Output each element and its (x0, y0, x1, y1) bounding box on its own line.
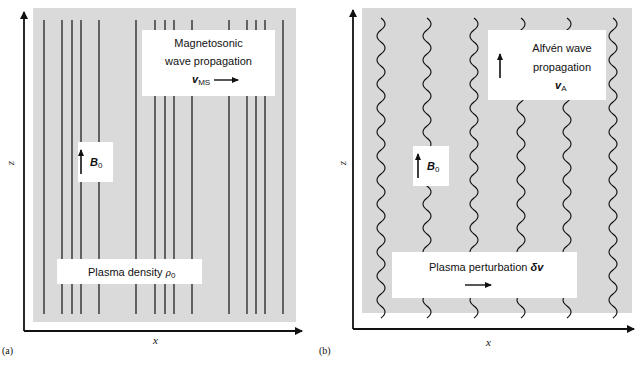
field-symbol: B (427, 160, 435, 172)
panel-b-wave-box: Alfvén wave propagation vA (488, 30, 606, 100)
velocity-label: vA (555, 78, 566, 96)
panel-b-tag: (b) (319, 345, 331, 356)
wave-title-line1: Alfvén wave (518, 41, 606, 55)
right-arrow-icon (392, 252, 577, 298)
density-label: Plasma density ρ0 (88, 265, 175, 283)
density-text: Plasma density (88, 266, 166, 278)
field-label-b0: B0 (427, 159, 439, 177)
panel-a-field-box: B0 (78, 142, 113, 182)
field-subscript: 0 (98, 161, 102, 170)
panel-a-tag: (a) (2, 345, 13, 356)
panel-b-field-box: B0 (413, 146, 449, 186)
panel-b-z-axis-label: z (336, 161, 348, 165)
panel-a-wave-box: Magnetosonic wave propagation vMS (142, 30, 275, 96)
velocity-subscript: A (561, 84, 566, 93)
panel-a-density-box: Plasma density ρ0 (57, 259, 202, 284)
right-arrow-icon (142, 30, 275, 96)
field-subscript: 0 (435, 165, 439, 174)
panel-a-x-axis-label: x (153, 334, 158, 346)
density-subscript: 0 (171, 271, 175, 280)
wave-title-line2: propagation (518, 60, 606, 74)
field-symbol: B (90, 156, 98, 168)
field-label-b0: B0 (90, 155, 102, 173)
panel-b-perturbation-box: Plasma perturbation δv (392, 252, 577, 298)
panel-a-z-axis-label: z (4, 161, 16, 165)
panel-b-x-axis-label: x (486, 336, 491, 348)
